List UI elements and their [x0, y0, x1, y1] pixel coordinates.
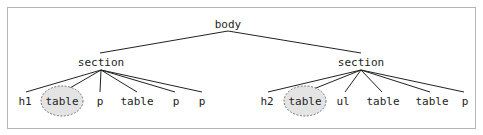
- tree-edge: [228, 31, 361, 53]
- node-right-table-3: table: [415, 95, 448, 108]
- node-left-p-1: p: [97, 95, 104, 108]
- node-left-h1: h1: [18, 95, 31, 108]
- tree-edge: [101, 70, 175, 92]
- node-right-ul: ul: [336, 95, 349, 108]
- node-left-table-2: table: [120, 95, 153, 108]
- node-section-left: section: [78, 56, 124, 69]
- node-right-table-1: table: [288, 95, 321, 108]
- tree-edge: [100, 31, 228, 53]
- node-body: body: [215, 18, 242, 31]
- node-right-p: p: [462, 95, 469, 108]
- dom-tree-diagram: bodysectionsectionh1tableptablepph2table…: [0, 0, 483, 135]
- node-left-p-3: p: [199, 95, 206, 108]
- tree-edge: [101, 70, 202, 92]
- node-right-table-2: table: [366, 95, 399, 108]
- node-left-p-2: p: [173, 95, 180, 108]
- node-left-table-1: table: [45, 95, 78, 108]
- tree-svg: bodysectionsectionh1tableptablepph2table…: [0, 0, 483, 135]
- tree-edge: [100, 70, 101, 92]
- node-section-right: section: [338, 56, 384, 69]
- tree-edge: [101, 70, 137, 92]
- tree-edge: [361, 70, 464, 92]
- node-right-h2: h2: [260, 95, 273, 108]
